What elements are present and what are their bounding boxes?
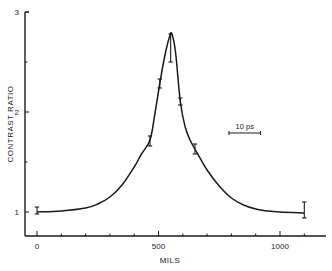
- scale-bar: 10 ps: [229, 122, 261, 135]
- error-bar: [302, 202, 306, 218]
- y-tick-label: 3: [15, 8, 20, 17]
- error-bar: [178, 98, 182, 105]
- x-tick-label: 1000: [271, 242, 289, 251]
- x-axis-title: MILS: [160, 256, 181, 265]
- y-axis-title: CONTRAST RATIO: [6, 86, 15, 163]
- annotations: 10 ps: [229, 122, 261, 135]
- scale-bar-label: 10 ps: [236, 122, 255, 131]
- x-tick-label: 500: [152, 242, 166, 251]
- error-bar: [158, 79, 162, 88]
- x-tick-label: 0: [35, 242, 40, 251]
- y-tick-label: 2: [15, 108, 20, 117]
- error-bars: [35, 34, 307, 218]
- chart: 12305001000 10 ps MILS CONTRAST RATIO: [0, 0, 332, 271]
- error-bar: [35, 207, 39, 214]
- y-tick-label: 1: [15, 208, 20, 217]
